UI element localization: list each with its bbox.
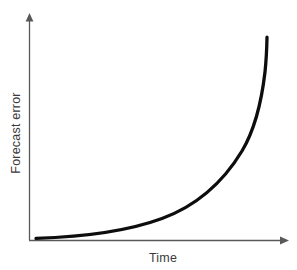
forecast-error-curve xyxy=(36,37,267,238)
y-axis-arrow-icon xyxy=(26,13,34,22)
chart-figure: Forecast error Time xyxy=(0,0,297,270)
y-axis-label: Forecast error xyxy=(10,92,23,173)
chart-plot-area xyxy=(0,0,297,270)
x-axis-arrow-icon xyxy=(280,236,289,244)
x-axis-label: Time xyxy=(149,252,177,265)
